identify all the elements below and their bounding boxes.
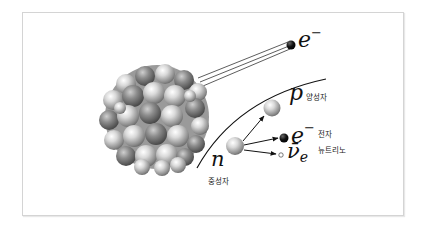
neutron-label: 중성자 (208, 177, 229, 186)
neutron-symbol: n (211, 147, 225, 171)
emitted-electron (287, 41, 296, 50)
emission-trail (198, 42, 290, 86)
decay-arrows (243, 116, 278, 154)
beta-decay-diagram: e− n 중성자 p 양성자 e− 전자 ν̄e 뉴트리노 (0, 0, 427, 231)
nucleus (99, 64, 209, 176)
neutron-particle (226, 137, 244, 155)
proton-symbol: p (289, 80, 303, 105)
proton-particle (264, 100, 281, 117)
electron-label: 전자 (318, 129, 332, 139)
proton-label: 양성자 (306, 93, 327, 102)
emitted-electron-symbol: e− (298, 25, 322, 52)
antineutrino-particle (279, 153, 283, 157)
antineutrino-symbol: ν̄e (287, 139, 308, 165)
antineutrino-label: 뉴트리노 (318, 146, 346, 155)
